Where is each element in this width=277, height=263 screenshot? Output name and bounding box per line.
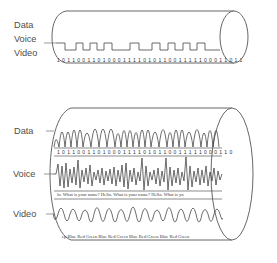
baseband-label-video: Video [14, 48, 37, 58]
broadband-video-channel [53, 207, 223, 222]
transmission-diagram: 1 0 1 1 0 0 1 1 0 1 0 0 0 1 1 1 1 0 1 0 … [0, 0, 277, 263]
broadband-group: 1 0 1 1 0 0 1 1 0 1 0 0 0 1 1 1 1 0 1 0 … [13, 108, 253, 240]
broadband-voice-annotation: lo. What is your name? Hello. What is yo… [57, 192, 184, 197]
broadband-voice-channel [52, 157, 222, 190]
broadband-data-waveform [54, 129, 219, 147]
baseband-label-data: Data [14, 20, 34, 30]
broadband-label-video: Video [13, 209, 36, 219]
broadband-video-waveform [53, 207, 223, 222]
broadband-voice-waveform [52, 157, 222, 190]
baseband-label-voice: Voice [14, 34, 36, 44]
diagram-canvas: 1 0 1 1 0 0 1 1 0 1 0 0 0 1 1 1 1 0 1 0 … [0, 0, 277, 263]
baseband-tube-left-cap [52, 11, 66, 63]
baseband-square-wave [56, 43, 220, 50]
baseband-tube-right-cap [220, 11, 248, 63]
broadband-video-annotation: ep Blue Red Green Blue Red Green Blue Re… [62, 234, 190, 239]
broadband-label-data: Data [14, 126, 34, 136]
broadband-data-annotation: 1 0 1 1 0 0 1 1 0 1 0 0 0 1 1 1 1 0 1 0 … [57, 149, 233, 155]
baseband-bitstream: 1 0 1 1 0 0 1 1 0 1 0 0 0 1 1 1 1 0 1 0 … [57, 57, 243, 63]
broadband-data-channel [54, 129, 219, 147]
baseband-group: 1 0 1 1 0 0 1 1 0 1 0 0 0 1 1 1 1 0 1 0 … [14, 11, 248, 63]
broadband-label-voice: Voice [13, 169, 35, 179]
